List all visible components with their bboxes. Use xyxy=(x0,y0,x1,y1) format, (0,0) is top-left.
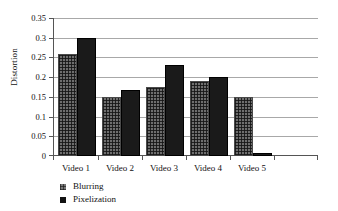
x-tick-mark-5 xyxy=(274,156,275,160)
bar-chart-figure: Distortion 0.35 0.3 0.25 0.2 0.15 0.1 0.… xyxy=(0,0,338,211)
bar-blurring-video-2 xyxy=(102,97,121,156)
bar-pixelization-video-2 xyxy=(121,90,140,156)
y-tick-label-1: 0.3 xyxy=(6,34,46,43)
blurring-swatch-icon xyxy=(60,184,66,190)
bar-pixelization-video-5 xyxy=(253,153,272,156)
y-tick-label-6: 0.05 xyxy=(6,132,46,141)
pixelization-swatch-icon xyxy=(60,197,66,203)
chart-legend: Blurring Pixelization xyxy=(60,180,116,206)
plot-area: Video 1 Video 2 Video 3 Video 4 Video 5 xyxy=(53,18,318,156)
x-tick-mark-1 xyxy=(98,156,99,160)
x-tick-mark-2 xyxy=(142,156,143,160)
bar-group-video-2 xyxy=(98,18,142,156)
y-tick-label-2: 0.25 xyxy=(6,53,46,62)
x-tick-mark-6 xyxy=(317,156,318,160)
bar-group-video-4 xyxy=(186,18,230,156)
bar-blurring-video-3 xyxy=(146,87,165,156)
y-axis-title: Distortion xyxy=(9,32,19,102)
legend-item-blurring: Blurring xyxy=(60,180,116,193)
bar-pixelization-video-1 xyxy=(77,38,96,156)
bar-group-video-3 xyxy=(142,18,186,156)
bar-blurring-video-4 xyxy=(190,81,209,156)
bar-group-video-1 xyxy=(54,18,98,156)
bar-pixelization-video-4 xyxy=(209,77,228,156)
bar-group-video-5 xyxy=(230,18,274,156)
bar-blurring-video-5 xyxy=(234,97,253,156)
x-tick-mark-3 xyxy=(186,156,187,160)
y-tick-label-5: 0.1 xyxy=(6,113,46,122)
y-tick-label-3: 0.2 xyxy=(6,73,46,82)
bar-pixelization-video-3 xyxy=(165,65,184,156)
x-tick-label-video-5: Video 5 xyxy=(225,163,279,173)
x-tick-mark-4 xyxy=(230,156,231,160)
legend-label-pixelization: Pixelization xyxy=(73,195,116,204)
legend-item-pixelization: Pixelization xyxy=(60,193,116,206)
y-tick-label-0: 0.35 xyxy=(6,14,46,23)
bar-blurring-video-1 xyxy=(58,54,77,157)
y-tick-label-7: 0 xyxy=(6,152,46,161)
y-tick-label-4: 0.15 xyxy=(6,93,46,102)
legend-label-blurring: Blurring xyxy=(73,182,104,191)
x-tick-mark-0 xyxy=(53,156,54,160)
